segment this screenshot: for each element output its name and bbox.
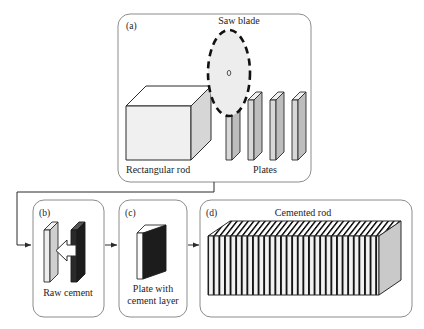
cement-coated-plate-shape (137, 225, 166, 279)
plate-item (292, 92, 306, 160)
plate-item (270, 92, 284, 160)
rectangular-rod-label: Rectangular rod (126, 164, 190, 175)
panel-b: (b) Raw cement (33, 200, 104, 317)
panel-a: (a) Saw blade Rectangular rod (118, 14, 311, 182)
plate-cement-label-line2: cement layer (127, 295, 179, 306)
rectangular-rod-shape (126, 86, 211, 160)
saw-blade-icon (208, 30, 250, 116)
panel-a-index: (a) (126, 21, 137, 32)
plate-blank-shape (44, 222, 58, 282)
panel-d-index: (d) (206, 208, 217, 219)
plate-item (248, 92, 262, 160)
plates-label: Plates (253, 164, 277, 175)
process-diagram: (a) Saw blade Rectangular rod (0, 0, 424, 329)
plate-cement-label-line1: Plate with (133, 283, 173, 294)
panel-d: (d) Cemented rod (200, 200, 412, 317)
panel-b-index: (b) (39, 208, 50, 219)
saw-blade-label: Saw blade (218, 15, 260, 26)
panel-c: (c) Plate with cement layer (119, 200, 187, 317)
cemented-rod-shape (208, 221, 401, 295)
cemented-rod-label: Cemented rod (275, 207, 331, 218)
raw-cement-label: Raw cement (43, 287, 93, 298)
figure-canvas: (a) Saw blade Rectangular rod (0, 0, 424, 329)
panel-c-index: (c) (125, 208, 136, 219)
